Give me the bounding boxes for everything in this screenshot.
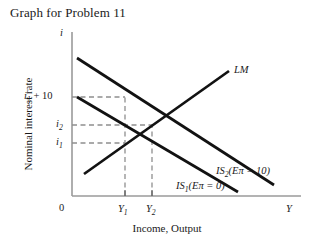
x-tick-sub-y2: 2 — [152, 208, 156, 217]
y-tick-label-i1: i1 — [56, 136, 63, 150]
y-tick-sub-i1b: 1 — [59, 141, 63, 150]
y-tick-label-i1-plus-10: i1 + 10 — [24, 90, 52, 104]
y-tick-sub-i2: 2 — [59, 123, 63, 132]
x-tick-label-y2: Y2 — [146, 203, 156, 217]
origin-label: 0 — [59, 202, 64, 213]
curve-label-lm: LM — [234, 64, 249, 75]
curve-label-is1: IS1(Eπ = 0) — [176, 180, 225, 194]
x-tick-label-y1: Y1 — [118, 203, 128, 217]
x-tick-sub-y1: 1 — [124, 208, 128, 217]
y-tick-suffix-plus10: + 10 — [31, 90, 53, 101]
curve-label-is2: IS2(Eπ = 10) — [216, 165, 270, 179]
x-axis-symbol: Y — [286, 203, 292, 214]
x-axis-title: Income, Output — [72, 222, 262, 234]
curve-label-is2-name: IS — [216, 165, 225, 176]
curve-label-is1-name: IS — [176, 180, 185, 191]
plot-canvas — [0, 0, 313, 252]
economics-figure: Graph for Problem 11 i Y Nominal interes… — [0, 0, 313, 252]
y-tick-label-i2: i2 — [56, 118, 63, 132]
y-axis-title: Nominal interest rate — [22, 49, 34, 199]
curve-label-is2-paren: (Eπ = 10) — [229, 165, 271, 176]
y-axis-symbol: i — [60, 27, 63, 38]
curve-label-is1-paren: (Eπ = 0) — [189, 180, 225, 191]
curve-lm — [84, 71, 229, 174]
